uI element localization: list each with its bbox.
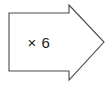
arrow-label: × 6 xyxy=(9,13,69,71)
arrow-label-text: × 6 xyxy=(28,35,51,50)
arrow-diagram-canvas: × 6 xyxy=(0,0,112,86)
